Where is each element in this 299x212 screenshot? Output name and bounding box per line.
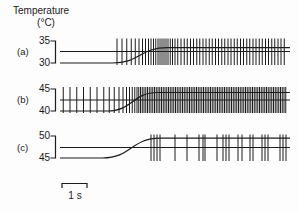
panel-b-recording bbox=[51, 87, 291, 113]
traces-layer bbox=[0, 0, 299, 212]
panel-a-axis-bracket bbox=[51, 41, 56, 63]
figure-canvas: Temperature (°C) (a) (b) (c) 35 30 45 40… bbox=[0, 0, 299, 212]
panel-c-recording bbox=[51, 135, 291, 162]
panel-c-axis-bracket bbox=[51, 136, 56, 158]
panel-b-axis-bracket bbox=[51, 89, 56, 111]
panel-a-recording bbox=[51, 39, 291, 66]
time-scale-bar bbox=[62, 184, 87, 189]
